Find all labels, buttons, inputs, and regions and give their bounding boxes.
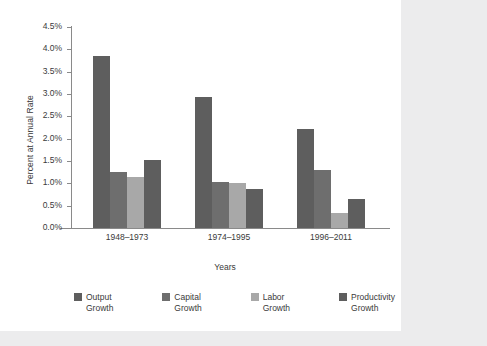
- y-axis-tick-label: 2.0%: [43, 133, 62, 143]
- y-axis-tick-mark: [67, 228, 72, 229]
- bar: [229, 183, 246, 228]
- bar-group-bars: [91, 27, 163, 228]
- legend-label: Output Growth: [86, 292, 113, 314]
- x-axis-title: Years: [60, 262, 390, 272]
- bar-group-bars: [193, 27, 265, 228]
- chart-page: Percent at Annual Rate 0.0%0.5%1.0%1.5%2…: [0, 0, 487, 346]
- bar: [297, 129, 314, 228]
- bar-group: 1996–2011: [295, 27, 367, 228]
- legend-swatch-icon: [251, 293, 259, 301]
- y-axis-tick-label: 3.0%: [43, 88, 62, 98]
- legend-swatch-icon: [74, 293, 82, 301]
- bar: [93, 56, 110, 228]
- y-axis-tick-label: 2.5%: [43, 110, 62, 120]
- y-axis-title: Percent at Annual Rate: [25, 60, 39, 220]
- bar-group-bars: [295, 27, 367, 228]
- x-axis-line: [60, 228, 390, 229]
- legend-swatch-icon: [339, 293, 347, 301]
- bar: [314, 170, 331, 228]
- bar: [110, 172, 127, 228]
- legend-item: Productivity Growth: [339, 292, 395, 314]
- legend-item: Output Growth: [74, 292, 113, 314]
- bar: [212, 182, 229, 228]
- bar: [246, 189, 263, 228]
- legend-label: Labor Growth: [263, 292, 290, 314]
- y-axis-tick-label: 1.0%: [43, 177, 62, 187]
- bar: [348, 199, 365, 228]
- bar: [195, 97, 212, 228]
- bar: [331, 213, 348, 228]
- plot-area: 1948–19731974–19951996–2011: [72, 27, 378, 228]
- legend-label: Productivity Growth: [351, 292, 395, 314]
- y-axis-tick-label: 0.0%: [43, 222, 62, 232]
- legend-item: Capital Growth: [162, 292, 201, 314]
- legend-label: Capital Growth: [174, 292, 201, 314]
- y-axis-tick-label: 4.5%: [43, 21, 62, 31]
- y-axis-tick-label: 1.5%: [43, 155, 62, 165]
- bar-group: 1974–1995: [193, 27, 265, 228]
- chart-panel: Percent at Annual Rate 0.0%0.5%1.0%1.5%2…: [0, 0, 401, 331]
- legend-item: Labor Growth: [251, 292, 290, 314]
- bar-group: 1948–1973: [91, 27, 163, 228]
- bar: [127, 177, 144, 228]
- y-axis-tick-label: 0.5%: [43, 200, 62, 210]
- y-axis-tick-label: 3.5%: [43, 66, 62, 76]
- y-axis-tick-label: 4.0%: [43, 43, 62, 53]
- chart-legend: Output GrowthCapital GrowthLabor GrowthP…: [60, 292, 395, 314]
- legend-swatch-icon: [162, 293, 170, 301]
- bar: [144, 160, 161, 228]
- x-axis-tick-label: 1996–2011: [265, 232, 397, 242]
